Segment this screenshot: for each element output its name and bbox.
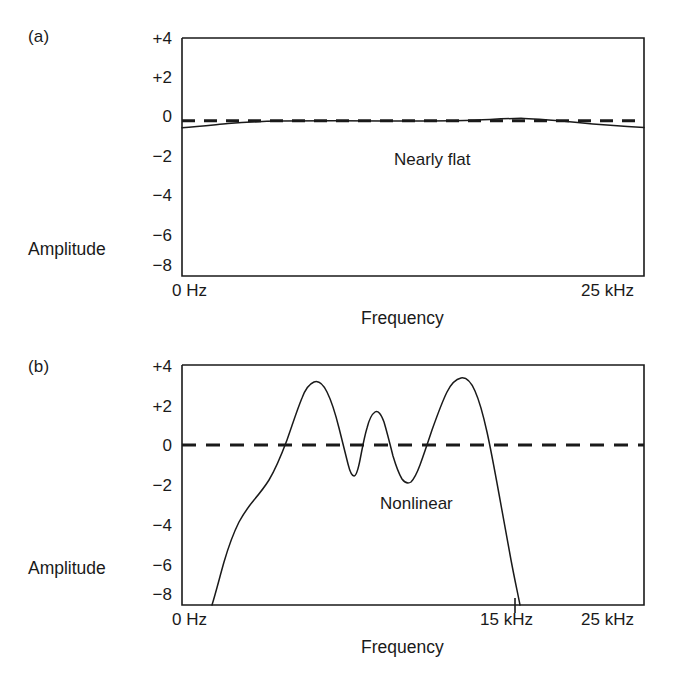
chart-panel-b: (b) Amplitude +4 +2 0 −2 −4 −6 −8 Nonlin…	[0, 340, 692, 680]
plot-frame-b	[182, 365, 644, 605]
x-tick-label-b-1: 15 kHz	[480, 610, 533, 630]
chart-panel-a: (a) Amplitude +4 +2 0 −2 −4 −6 −8 Nearly…	[0, 0, 692, 340]
annotation-nearly-flat: Nearly flat	[394, 150, 471, 170]
x-tick-label-a-0: 0 Hz	[172, 281, 207, 301]
x-tick-label-b-2: 25 kHz	[581, 610, 634, 630]
x-axis-title-b: Frequency	[361, 637, 444, 658]
response-curve-b	[212, 378, 520, 605]
x-tick-label-a-1: 25 kHz	[581, 281, 634, 301]
x-tick-label-b-0: 0 Hz	[172, 610, 207, 630]
annotation-nonlinear: Nonlinear	[380, 494, 453, 514]
x-axis-title-a: Frequency	[361, 308, 444, 329]
figure-frequency-response: (a) Amplitude +4 +2 0 −2 −4 −6 −8 Nearly…	[0, 0, 692, 680]
